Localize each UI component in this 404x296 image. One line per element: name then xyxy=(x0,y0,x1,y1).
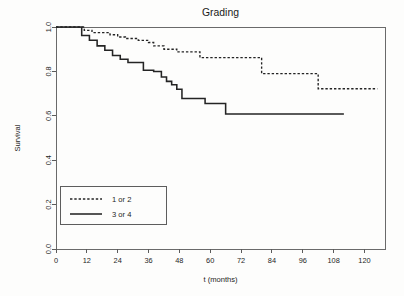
x-tick-label: 108 xyxy=(327,256,339,265)
x-tick-label: 84 xyxy=(268,256,276,265)
x-tick-label: 120 xyxy=(358,256,370,265)
x-tick-label: 12 xyxy=(83,256,91,265)
y-tick-label: 0.4 xyxy=(44,155,53,165)
y-tick-label: 0.2 xyxy=(44,199,53,209)
x-tick-label: 96 xyxy=(299,256,307,265)
x-tick-label: 36 xyxy=(144,256,152,265)
x-tick-label: 0 xyxy=(54,256,58,265)
plot-title: Grading xyxy=(202,7,239,18)
x-tick-label: 48 xyxy=(175,256,183,265)
survival-curve-3-or-4 xyxy=(56,27,344,114)
y-tick-label: 0.8 xyxy=(44,66,53,76)
y-tick-label: 0.0 xyxy=(44,244,53,254)
legend-label: 1 or 2 xyxy=(112,195,131,204)
x-tick-label: 72 xyxy=(237,256,245,265)
y-axis-title: Survival xyxy=(13,124,22,151)
plot-frame xyxy=(56,27,385,249)
x-tick-label: 60 xyxy=(206,256,214,265)
y-tick-label: 1.0 xyxy=(44,22,53,32)
kaplan-meier-figure: 012243648607284961081200.00.20.40.60.81.… xyxy=(0,0,404,296)
survival-curve-1-or-2 xyxy=(56,27,377,89)
y-tick-label: 0.6 xyxy=(44,111,53,121)
x-tick-label: 24 xyxy=(114,256,122,265)
legend-label: 3 or 4 xyxy=(112,210,131,219)
survival-plot-canvas: 012243648607284961081200.00.20.40.60.81.… xyxy=(0,0,404,296)
x-axis-title: t (months) xyxy=(203,275,238,284)
